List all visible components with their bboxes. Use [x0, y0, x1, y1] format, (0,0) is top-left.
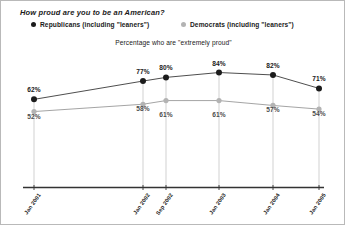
value-label-republicans: 84% — [212, 60, 226, 67]
series-polyline — [34, 73, 319, 100]
data-point-marker — [163, 98, 168, 103]
data-point-marker — [163, 74, 169, 80]
value-label-republicans: 80% — [159, 64, 173, 71]
value-label-republicans: 71% — [312, 75, 326, 82]
data-point-marker — [216, 98, 221, 103]
value-label-democrats: 61% — [159, 111, 173, 118]
data-point-marker — [31, 96, 37, 102]
value-label-democrats: 58% — [136, 105, 150, 112]
data-point-marker — [316, 85, 322, 91]
data-point-marker — [270, 72, 276, 78]
value-label-democrats: 52% — [27, 113, 41, 120]
chart-screenshot: How proud are you to be an American? Rep… — [0, 0, 345, 225]
value-label-republicans: 62% — [27, 86, 41, 93]
value-label-republicans: 82% — [266, 62, 280, 69]
gridlines — [34, 73, 319, 190]
series-markers-republicans — [31, 70, 322, 103]
value-label-democrats: 54% — [312, 110, 326, 117]
series-line-republicans — [34, 73, 319, 100]
data-point-marker — [140, 78, 146, 84]
value-label-republicans: 77% — [136, 68, 150, 75]
data-point-marker — [216, 70, 222, 76]
value-label-democrats: 61% — [212, 111, 226, 118]
value-label-democrats: 57% — [266, 106, 280, 113]
